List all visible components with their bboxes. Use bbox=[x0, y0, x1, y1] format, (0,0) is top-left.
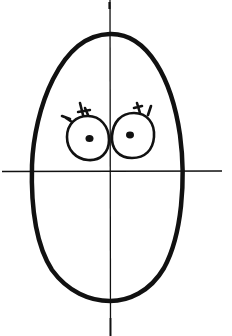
horizontal-guide-line bbox=[2, 171, 222, 172]
face-sketch-diagram bbox=[0, 0, 232, 336]
left-eye-pupil bbox=[86, 135, 94, 142]
right-eye-lash-2 bbox=[148, 106, 151, 115]
left-eye-lash-tuft bbox=[78, 110, 90, 112]
vertical-guide-line bbox=[110, 0, 111, 336]
left-eye bbox=[62, 103, 109, 160]
head-oval bbox=[32, 34, 183, 301]
right-eye-pupil bbox=[126, 132, 134, 139]
left-eye-lash-1 bbox=[62, 116, 72, 122]
right-eye bbox=[112, 103, 154, 158]
right-eye-lash-1 bbox=[134, 103, 142, 113]
sketch-canvas: Egg-shaped face sketch with construction… bbox=[0, 0, 232, 336]
left-eye-lash-2 bbox=[80, 103, 88, 115]
